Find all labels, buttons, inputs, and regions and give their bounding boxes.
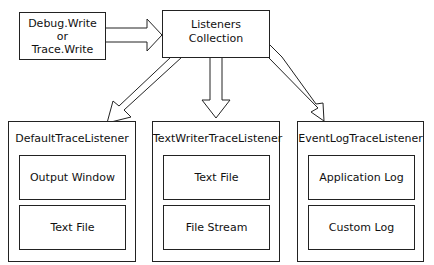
collection-line-2: Collection: [163, 32, 269, 45]
output-text-file: Text File: [19, 205, 126, 250]
textwriter-trace-listener-box: TextWriterTraceListener Text File File S…: [152, 121, 280, 262]
arrow-source-to-collection: [105, 19, 162, 51]
output-window: Output Window: [19, 155, 126, 200]
eventlog-trace-listener-box: EventLogTraceListener Application Log Cu…: [297, 121, 424, 262]
collection-line-1: Listeners: [163, 18, 269, 31]
output-application-log: Application Log: [308, 155, 415, 200]
listener-title: TextWriterTraceListener: [153, 132, 279, 145]
output-custom-log: Custom Log: [308, 205, 415, 250]
listener-title: EventLogTraceListener: [298, 132, 423, 145]
arrow-collection-to-default: [107, 57, 182, 123]
output-text-file: Text File: [163, 155, 270, 200]
source-line-1: Debug.Write: [20, 17, 105, 30]
listener-title: DefaultTraceListener: [9, 132, 135, 145]
output-file-stream: File Stream: [163, 205, 270, 250]
listeners-collection-box: Listeners Collection: [162, 10, 270, 58]
arrow-collection-to-eventlog: [269, 44, 324, 121]
source-line-2: or: [20, 30, 105, 43]
source-line-3: Trace.Write: [20, 43, 105, 56]
default-trace-listener-box: DefaultTraceListener Output Window Text …: [8, 121, 136, 262]
arrow-collection-to-textwriter: [202, 57, 230, 118]
source-box: Debug.Write or Trace.Write: [19, 12, 106, 60]
